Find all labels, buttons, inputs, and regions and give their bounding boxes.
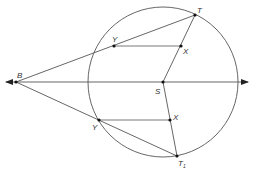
point-y-upper <box>112 44 115 47</box>
point-t1 <box>175 154 178 157</box>
point-y-lower <box>97 118 100 121</box>
label-x-upper: X <box>182 47 189 56</box>
label-t: T <box>197 6 203 15</box>
label-y-upper: Y <box>112 35 118 44</box>
point-s <box>161 80 164 83</box>
line-b-t1 <box>16 82 177 156</box>
label-t1: T1 <box>178 159 186 169</box>
label-b: B <box>17 71 23 80</box>
point-x-lower <box>168 118 171 121</box>
label-s: S <box>155 87 161 96</box>
label-t1-sub: 1 <box>183 163 186 169</box>
point-b <box>14 80 17 83</box>
label-y-lower: Y <box>92 123 98 132</box>
geometry-diagram: B S T T1 Y X Y X <box>0 0 254 172</box>
label-x-lower: X <box>172 113 179 122</box>
